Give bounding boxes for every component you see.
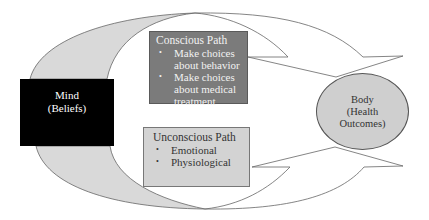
unconscious-path-box: Unconscious Path •Emotional •Physiologic… xyxy=(143,127,250,187)
body-subtitle-2: Outcomes) xyxy=(317,118,408,130)
body-subtitle-1: (Health xyxy=(317,106,408,118)
body-title: Body xyxy=(317,94,408,106)
mind-subtitle: (Beliefs) xyxy=(20,102,114,115)
conscious-path-list: •Make choices about behavior •Make choic… xyxy=(156,47,243,107)
mind-title: Mind xyxy=(20,89,114,102)
unconscious-path-list: •Emotional •Physiological xyxy=(153,144,245,168)
conscious-path-title: Conscious Path xyxy=(156,34,243,46)
conscious-path-box: Conscious Path •Make choices about behav… xyxy=(149,31,248,104)
list-item: •Emotional xyxy=(153,144,245,156)
bullet-icon: • xyxy=(159,71,162,83)
list-item: •Physiological xyxy=(153,156,245,168)
bullet-icon: • xyxy=(156,144,159,156)
body-ellipse: Body (Health Outcomes) xyxy=(316,73,409,150)
list-item: •Make choices about behavior xyxy=(156,47,243,71)
unconscious-path-title: Unconscious Path xyxy=(153,131,245,143)
mind-box: Mind (Beliefs) xyxy=(20,79,114,146)
bullet-icon: • xyxy=(156,156,159,168)
list-item: •Make choices about medical treatment xyxy=(156,71,243,107)
bullet-icon: • xyxy=(159,47,162,59)
